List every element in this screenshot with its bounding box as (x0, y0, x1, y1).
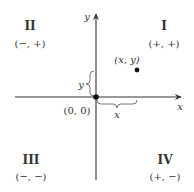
quadrant-i-numeral: I (161, 19, 167, 33)
quadrant-iv-numeral: IV (158, 153, 174, 167)
quadrant-iv: IV (+, −) (150, 153, 181, 182)
quadrant-ii-signs: (−, +) (15, 38, 46, 49)
x-axis-label: x (177, 101, 183, 112)
coordinate-plane: x y (0, 0) (x, y) x y I (+, +) II (−, +)… (0, 0, 194, 192)
x-distance-brace (97, 100, 137, 108)
quadrant-iii: III (−, −) (16, 153, 47, 182)
x-distance-label: x (114, 109, 120, 120)
quadrant-i-signs: (+, +) (149, 38, 180, 49)
origin-point (93, 94, 99, 100)
quadrant-i: I (+, +) (149, 19, 180, 49)
y-axis-label: y (83, 11, 90, 22)
point-xy (135, 68, 140, 73)
quadrant-ii: II (−, +) (15, 19, 46, 49)
quadrant-iii-numeral: III (23, 153, 40, 167)
quadrant-ii-numeral: II (24, 19, 36, 33)
y-distance-label: y (77, 79, 84, 90)
quadrant-iv-signs: (+, −) (150, 171, 181, 182)
y-distance-brace (86, 71, 94, 96)
origin-label: (0, 0) (64, 105, 91, 116)
quadrant-iii-signs: (−, −) (16, 171, 47, 182)
point-xy-label: (x, y) (114, 54, 140, 65)
